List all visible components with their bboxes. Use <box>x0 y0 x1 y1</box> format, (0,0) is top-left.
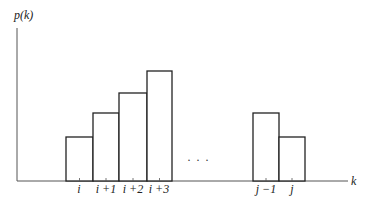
x-axis-label: k <box>351 174 357 188</box>
tick-label-i: i <box>77 182 80 196</box>
bar-i+2 <box>119 93 147 181</box>
tick-label-j: j <box>288 182 294 196</box>
tick-label-j-minus-1: j −1 <box>254 182 276 196</box>
tick-label-i-plus-3: i +3 <box>149 182 169 196</box>
ellipsis: · · · <box>187 153 210 167</box>
tick-label-i-plus-1: i +1 <box>96 182 116 196</box>
tick-label-i-plus-2: i +2 <box>123 182 143 196</box>
bar-j-1 <box>253 113 279 181</box>
bar-i <box>66 137 93 181</box>
probability-histogram: p(k) k · · · i i +1 i +2 i +3 j −1 j <box>0 0 370 207</box>
bar-i+3 <box>147 71 172 181</box>
bar-j <box>279 137 305 181</box>
bars <box>66 71 305 181</box>
bar-i+1 <box>93 113 119 181</box>
y-axis-label: p(k) <box>13 8 33 22</box>
